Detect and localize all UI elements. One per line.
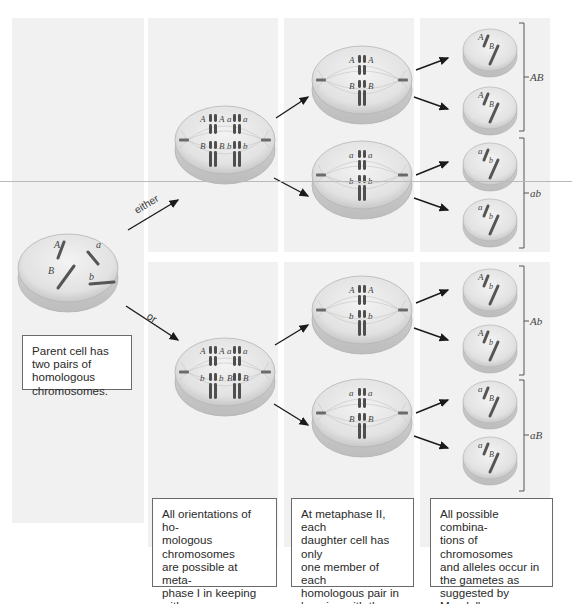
svg-text:A: A bbox=[348, 55, 355, 65]
svg-text:b: b bbox=[227, 141, 232, 151]
arrow-g2 bbox=[414, 97, 448, 109]
svg-text:B: B bbox=[489, 100, 494, 109]
metaphase-I-cell-bottom: A A a a b b B B bbox=[175, 338, 275, 416]
svg-text:a: a bbox=[243, 114, 248, 124]
arrow-g3 bbox=[416, 162, 448, 175]
svg-text:a: a bbox=[478, 146, 483, 156]
gamete-5: A b bbox=[463, 269, 517, 317]
svg-text:a: a bbox=[478, 384, 483, 394]
svg-text:A: A bbox=[367, 55, 374, 65]
svg-text:a: a bbox=[243, 346, 248, 356]
svg-text:b: b bbox=[349, 311, 354, 321]
svg-text:B: B bbox=[489, 450, 494, 459]
parent-allele-a: a bbox=[96, 239, 101, 250]
svg-text:b: b bbox=[489, 212, 493, 221]
parent-cell: A a B b bbox=[18, 234, 118, 312]
svg-text:B: B bbox=[368, 414, 374, 424]
metaphase-II-cell-4: a a B B bbox=[312, 379, 412, 457]
metaphase-II-cell-3: A A b b bbox=[312, 276, 412, 354]
arrow-mI-bottom-up bbox=[275, 325, 308, 345]
svg-text:B: B bbox=[349, 81, 355, 91]
svg-text:A: A bbox=[477, 328, 484, 338]
group-label-aB: aB bbox=[530, 429, 543, 441]
svg-text:A: A bbox=[199, 346, 206, 356]
svg-text:A: A bbox=[367, 285, 374, 295]
svg-text:b: b bbox=[489, 338, 493, 347]
parent-allele-b: b bbox=[89, 271, 94, 282]
metaphase-II-cell-1: A A B B bbox=[312, 46, 412, 124]
group-label-ab: ab bbox=[530, 187, 542, 199]
metaphase-II-cell-2: a a b b bbox=[312, 141, 412, 219]
svg-text:A: A bbox=[218, 114, 225, 124]
caption-metaphase-II: At metaphase II, each daughter cell has … bbox=[291, 498, 414, 587]
group-label-AB: AB bbox=[529, 71, 544, 83]
svg-text:A: A bbox=[477, 32, 484, 42]
svg-text:a: a bbox=[478, 202, 483, 212]
svg-text:B: B bbox=[349, 414, 355, 424]
metaphase-I-cell-top: A A a a B B b b bbox=[175, 106, 275, 184]
svg-text:b: b bbox=[200, 373, 205, 383]
caption-gametes: All possible combina- tions of chromosom… bbox=[430, 498, 553, 587]
divider-line bbox=[0, 181, 572, 182]
svg-text:a: a bbox=[368, 388, 373, 398]
svg-text:A: A bbox=[477, 272, 484, 282]
svg-text:B: B bbox=[227, 373, 233, 383]
svg-text:b: b bbox=[489, 156, 493, 165]
gamete-brackets bbox=[519, 23, 529, 491]
parent-allele-A: A bbox=[53, 239, 61, 250]
arrow-g8 bbox=[414, 436, 448, 448]
svg-text:B: B bbox=[489, 42, 494, 51]
svg-text:A: A bbox=[199, 114, 206, 124]
svg-text:B: B bbox=[219, 141, 225, 151]
svg-text:A: A bbox=[218, 346, 225, 356]
arrow-g5 bbox=[416, 290, 448, 303]
arrow-g6 bbox=[414, 328, 448, 340]
gamete-6: A b bbox=[463, 325, 517, 373]
svg-text:a: a bbox=[227, 114, 232, 124]
svg-text:A: A bbox=[348, 285, 355, 295]
svg-text:B: B bbox=[489, 394, 494, 403]
svg-text:b: b bbox=[368, 311, 373, 321]
svg-text:B: B bbox=[200, 141, 206, 151]
label-or: or bbox=[145, 310, 160, 325]
arrow-g7 bbox=[416, 400, 448, 413]
svg-text:b: b bbox=[489, 282, 493, 291]
gamete-4: a b bbox=[463, 199, 517, 247]
arrow-mI-bottom-down bbox=[274, 404, 308, 425]
svg-text:B: B bbox=[243, 373, 249, 383]
svg-text:A: A bbox=[477, 90, 484, 100]
svg-text:b: b bbox=[243, 141, 248, 151]
caption-parent: Parent cell has two pairs of homologous … bbox=[22, 335, 132, 390]
gamete-2: A B bbox=[463, 87, 517, 135]
gamete-7: a B bbox=[463, 381, 517, 429]
arrow-mI-top-up bbox=[276, 97, 308, 118]
caption-metaphase-I: All orientations of ho- mologous chromos… bbox=[152, 498, 277, 587]
gamete-3: a b bbox=[463, 143, 517, 191]
svg-text:a: a bbox=[478, 440, 483, 450]
group-label-Ab: Ab bbox=[529, 315, 543, 327]
svg-text:a: a bbox=[349, 388, 354, 398]
svg-text:B: B bbox=[368, 81, 374, 91]
svg-text:b: b bbox=[219, 373, 224, 383]
arrow-g1 bbox=[416, 58, 448, 70]
svg-text:a: a bbox=[368, 150, 373, 160]
parent-allele-B: B bbox=[48, 265, 54, 276]
gamete-8: a B bbox=[463, 437, 517, 485]
svg-text:a: a bbox=[349, 150, 354, 160]
gamete-1: A B bbox=[463, 29, 517, 77]
arrow-g4 bbox=[414, 198, 448, 210]
svg-text:a: a bbox=[227, 346, 232, 356]
